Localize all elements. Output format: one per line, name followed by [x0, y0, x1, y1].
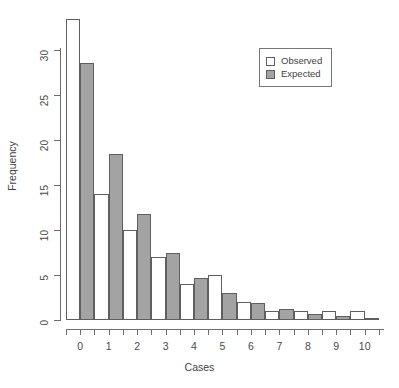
y-axis-line: [60, 48, 61, 321]
legend-swatch-expected-icon: [266, 70, 275, 79]
bar-expected-3: [166, 253, 180, 320]
x-tick-label-7: 7: [264, 340, 294, 352]
y-tick-0: [54, 320, 60, 321]
bar-expected-4: [194, 278, 208, 320]
x-tick-label-8: 8: [293, 340, 323, 352]
x-tick-16: [294, 329, 295, 335]
legend-label-observed: Observed: [281, 56, 322, 66]
bars-layer: [66, 12, 386, 320]
x-tick-0: [66, 329, 67, 335]
legend-item-observed: Observed: [266, 55, 322, 67]
y-tick-label-20: 20: [40, 140, 50, 180]
x-tick-7: [166, 329, 167, 335]
bar-expected-5: [222, 293, 236, 320]
y-tick-10: [54, 230, 60, 231]
x-tick-5: [137, 329, 138, 335]
x-tick-9: [194, 329, 195, 335]
y-tick-label-15: 15: [40, 185, 50, 225]
bar-expected-2: [137, 214, 151, 320]
bar-expected-7: [279, 309, 293, 320]
y-tick-15: [54, 185, 60, 186]
x-tick-8: [180, 329, 181, 335]
x-tick-15: [279, 329, 280, 335]
x-tick-17: [308, 329, 309, 335]
x-tick-4: [123, 329, 124, 335]
x-tick-13: [251, 329, 252, 335]
bar-observed-4: [180, 284, 194, 320]
x-tick-22: [379, 329, 380, 335]
y-tick-5: [54, 275, 60, 276]
legend-item-expected: Expected: [266, 68, 322, 80]
legend-label-expected: Expected: [281, 69, 321, 79]
y-tick-25: [54, 95, 60, 96]
bar-observed-9: [322, 311, 336, 320]
y-tick-label-10: 10: [40, 230, 50, 270]
legend: Observed Expected: [259, 48, 332, 87]
x-tick-label-4: 4: [179, 340, 209, 352]
plot-area: [66, 12, 386, 320]
x-tick-18: [322, 329, 323, 335]
barplot-figure: 051015202530 Frequency 012345678910 Case…: [0, 0, 399, 388]
bar-expected-10: [365, 318, 379, 320]
bar-expected-1: [109, 154, 123, 320]
bar-observed-7: [265, 311, 279, 320]
x-tick-12: [237, 329, 238, 335]
x-tick-2: [94, 329, 95, 335]
bar-observed-3: [151, 257, 165, 320]
x-tick-label-0: 0: [65, 340, 95, 352]
bar-observed-5: [208, 275, 222, 320]
x-tick-19: [336, 329, 337, 335]
x-tick-10: [208, 329, 209, 335]
bar-observed-6: [237, 302, 251, 320]
y-tick-label-5: 5: [40, 275, 50, 315]
legend-swatch-observed-icon: [266, 57, 275, 66]
x-tick-label-10: 10: [350, 340, 380, 352]
x-tick-label-2: 2: [122, 340, 152, 352]
y-tick-20: [54, 140, 60, 141]
y-tick-label-0: 0: [40, 320, 50, 360]
bar-expected-9: [336, 316, 350, 320]
x-tick-3: [109, 329, 110, 335]
x-tick-21: [365, 329, 366, 335]
x-tick-6: [151, 329, 152, 335]
bar-observed-2: [123, 230, 137, 320]
x-tick-label-6: 6: [236, 340, 266, 352]
bar-observed-1: [94, 194, 108, 320]
bar-expected-6: [251, 303, 265, 320]
x-tick-1: [80, 329, 81, 335]
x-tick-14: [265, 329, 266, 335]
y-tick-30: [54, 50, 60, 51]
bar-observed-10: [350, 311, 364, 320]
x-tick-label-9: 9: [321, 340, 351, 352]
x-tick-20: [350, 329, 351, 335]
bar-observed-8: [294, 311, 308, 320]
y-axis-title: Frequency: [6, 121, 18, 211]
x-tick-label-3: 3: [151, 340, 181, 352]
x-tick-11: [222, 329, 223, 335]
bar-expected-0: [80, 63, 94, 320]
x-tick-label-5: 5: [207, 340, 237, 352]
y-tick-label-25: 25: [40, 95, 50, 135]
x-tick-label-1: 1: [94, 340, 124, 352]
bar-expected-8: [308, 314, 322, 320]
y-tick-label-30: 30: [40, 50, 50, 90]
bar-observed-0: [66, 19, 80, 321]
x-axis-title: Cases: [0, 361, 399, 373]
